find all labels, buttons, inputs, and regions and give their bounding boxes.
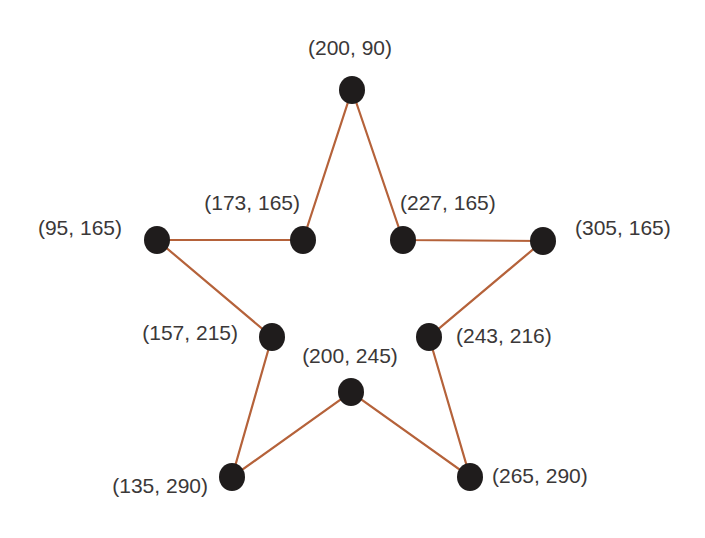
vertex-coordinate-label: (200, 245) (302, 344, 398, 367)
vertex-coordinate-label: (227, 165) (400, 191, 496, 214)
vertex-node (530, 227, 556, 255)
vertex-coordinate-label: (243, 216) (456, 324, 552, 347)
vertex-coordinate-label: (157, 215) (142, 321, 238, 344)
vertex-node (339, 76, 365, 104)
vertex-node (259, 323, 285, 351)
vertex-coordinate-label: (200, 90) (308, 36, 392, 59)
vertex-coordinate-label: (305, 165) (575, 216, 671, 239)
star-diagram: (200, 90)(227, 165)(305, 165)(243, 216)(… (0, 0, 705, 538)
vertex-node (144, 226, 170, 254)
vertex-coordinate-label: (173, 165) (204, 191, 300, 214)
star-outline (157, 90, 543, 477)
vertex-node (219, 463, 245, 491)
vertex-node (290, 226, 316, 254)
vertex-node (338, 378, 364, 406)
vertex-coordinate-label: (135, 290) (112, 474, 208, 497)
vertex-node (390, 226, 416, 254)
vertex-coordinate-label: (95, 165) (38, 216, 122, 239)
vertex-node (457, 463, 483, 491)
label-group: (200, 90)(227, 165)(305, 165)(243, 216)(… (38, 36, 671, 497)
vertex-node (416, 323, 442, 351)
vertex-coordinate-label: (265, 290) (492, 464, 588, 487)
